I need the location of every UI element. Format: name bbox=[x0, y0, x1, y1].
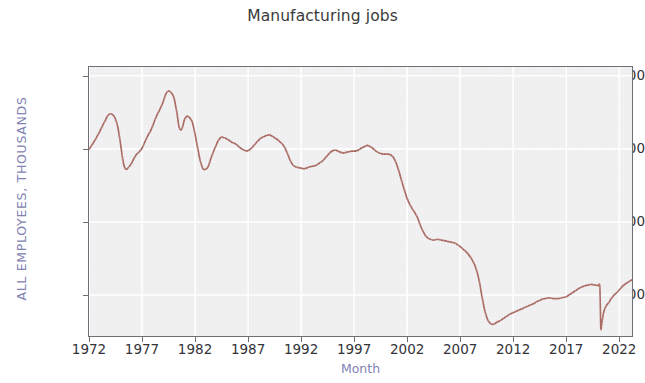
chart-figure: Manufacturing jobs ALL EMPLOYEES, THOUSA… bbox=[0, 0, 645, 383]
series-line-chart bbox=[89, 67, 632, 336]
x-tick-label-2017: 2017 bbox=[539, 341, 593, 357]
x-tick-label-2012: 2012 bbox=[486, 341, 540, 357]
x-tick-mark bbox=[142, 337, 143, 342]
x-tick-mark bbox=[301, 337, 302, 342]
x-tick-mark bbox=[248, 337, 249, 342]
x-tick-label-1992: 1992 bbox=[274, 341, 328, 357]
manufacturing-jobs-line bbox=[89, 91, 632, 330]
x-tick-mark bbox=[354, 337, 355, 342]
x-tick-label-1977: 1977 bbox=[115, 341, 169, 357]
plot-area bbox=[88, 66, 633, 337]
x-tick-mark bbox=[460, 337, 461, 342]
x-tick-mark bbox=[566, 337, 567, 342]
x-tick-label-1982: 1982 bbox=[168, 341, 222, 357]
x-tick-label-2022: 2022 bbox=[592, 341, 645, 357]
x-tick-label-1997: 1997 bbox=[327, 341, 381, 357]
x-tick-label-1987: 1987 bbox=[221, 341, 275, 357]
x-tick-mark bbox=[513, 337, 514, 342]
x-tick-mark bbox=[407, 337, 408, 342]
horizontal-gridlines bbox=[89, 76, 632, 295]
x-tick-label-2002: 2002 bbox=[380, 341, 434, 357]
x-tick-mark bbox=[619, 337, 620, 342]
x-tick-label-1972: 1972 bbox=[62, 341, 116, 357]
x-axis-title: Month bbox=[88, 361, 633, 376]
y-axis-title: ALL EMPLOYEES, THOUSANDS bbox=[14, 74, 29, 324]
chart-title: Manufacturing jobs bbox=[0, 7, 645, 25]
x-tick-label-2007: 2007 bbox=[433, 341, 487, 357]
x-tick-mark bbox=[195, 337, 196, 342]
x-tick-mark bbox=[89, 337, 90, 342]
